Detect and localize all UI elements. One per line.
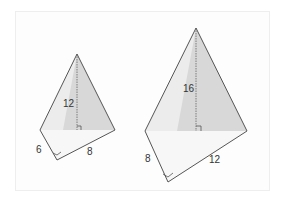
large-pyramid: 16 8 12 — [145, 28, 247, 182]
large-pyramid-height-label: 16 — [183, 83, 195, 94]
large-pyramid-base — [145, 131, 247, 182]
small-pyramid: 12 6 8 — [36, 54, 115, 160]
large-pyramid-left-edge-label: 8 — [145, 153, 151, 164]
small-pyramid-base — [40, 130, 115, 160]
small-pyramid-shaded-face — [63, 54, 115, 130]
small-pyramid-left-edge-label: 6 — [36, 144, 42, 155]
small-pyramid-height-label: 12 — [63, 98, 75, 109]
pyramids-diagram: 12 6 8 16 8 12 — [0, 0, 282, 199]
large-pyramid-right-edge-label: 12 — [209, 154, 221, 165]
small-pyramid-right-edge-label: 8 — [87, 146, 93, 157]
large-pyramid-shaded-face — [177, 28, 247, 131]
